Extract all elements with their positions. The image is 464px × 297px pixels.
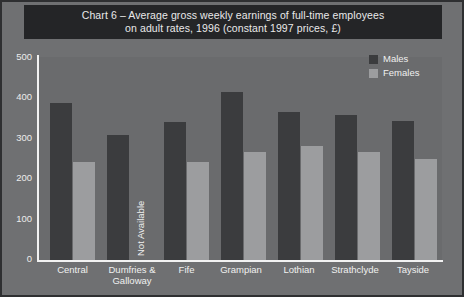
y-tick-label-300: 300 — [2, 133, 32, 143]
y-axis-line — [37, 55, 39, 262]
chart-title-banner: Chart 6 – Average gross weekly earnings … — [24, 5, 442, 39]
x-label-strathclyde: Strathclyde — [321, 264, 389, 275]
bar-female-tayside[interactable] — [415, 159, 437, 260]
bar-male-lothian[interactable] — [278, 112, 300, 260]
bar-female-central[interactable] — [73, 162, 95, 260]
legend-item-females[interactable]: Females — [369, 68, 419, 78]
x-axis-line — [37, 260, 443, 262]
plot-area: Not Available — [38, 57, 442, 260]
x-label-fife: Fife — [158, 264, 215, 275]
y-tick-label-0: 0 — [2, 254, 32, 264]
legend-label-females: Females — [383, 68, 419, 78]
bar-group-strathclyde — [329, 57, 386, 260]
bar-female-lothian[interactable] — [301, 146, 323, 260]
bar-female-fife[interactable] — [187, 162, 209, 260]
legend-swatch-females — [369, 69, 378, 78]
not-available-text: Not Available — [135, 201, 146, 256]
bar-group-tayside — [386, 57, 443, 260]
bar-male-tayside[interactable] — [392, 121, 414, 260]
y-tick-label-500: 500 — [2, 52, 32, 62]
legend-swatch-males — [369, 55, 378, 64]
bar-group-central — [44, 57, 101, 260]
bar-group-lothian — [272, 57, 329, 260]
x-label-lothian: Lothian — [270, 264, 328, 275]
bar-group-grampian — [215, 57, 272, 260]
bar-male-central[interactable] — [50, 103, 72, 260]
bar-female-grampian[interactable] — [244, 152, 266, 260]
x-label-grampian: Grampian — [211, 264, 271, 275]
legend-item-males[interactable]: Males — [369, 54, 419, 64]
chart-container: Chart 6 – Average gross weekly earnings … — [0, 0, 464, 297]
y-tick-label-100: 100 — [2, 214, 32, 224]
chart-title-line-1: Chart 6 – Average gross weekly earnings … — [82, 9, 385, 22]
bar-male-dumfries-galloway[interactable] — [107, 135, 129, 260]
chart-legend: Males Females — [369, 54, 419, 82]
x-label-tayside: Tayside — [384, 264, 442, 275]
bar-group-dumfries-galloway: Not Available — [101, 57, 158, 260]
chart-title-line-2: on adult rates, 1996 (constant 1997 pric… — [125, 22, 341, 35]
legend-label-males: Males — [383, 54, 408, 64]
y-axis-ticks: 500 400 300 200 100 0 — [2, 2, 35, 297]
bar-male-strathclyde[interactable] — [335, 115, 357, 260]
bar-male-grampian[interactable] — [221, 92, 243, 260]
bar-male-fife[interactable] — [164, 122, 186, 260]
bar-female-strathclyde[interactable] — [358, 152, 380, 260]
y-tick-label-200: 200 — [2, 173, 32, 183]
x-label-central: Central — [44, 264, 101, 275]
not-available-label-dumfries-galloway: Not Available — [130, 136, 152, 256]
bar-group-fife — [158, 57, 215, 260]
y-tick-label-400: 400 — [2, 92, 32, 102]
